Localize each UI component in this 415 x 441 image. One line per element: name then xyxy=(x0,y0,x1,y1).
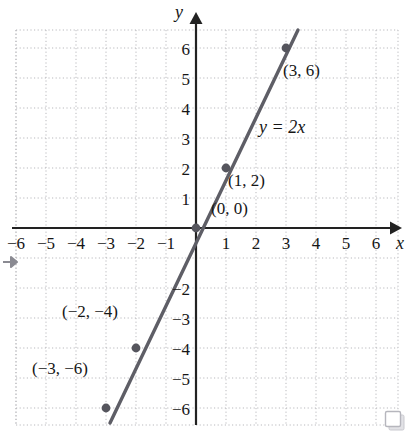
y-tick-3: 3 xyxy=(170,131,190,148)
y-tick-neg2: −2 xyxy=(163,281,190,298)
x-tick-6: 6 xyxy=(366,235,386,252)
graph-figure: −6 −5 −4 −3 −2 −1 1 2 3 4 5 6 6 5 4 3 2 … xyxy=(0,0,415,441)
x-tick-1: 1 xyxy=(216,235,236,252)
y-tick-neg3: −3 xyxy=(163,311,190,328)
x-axis-label: x xyxy=(396,234,404,252)
y-axis xyxy=(190,12,203,425)
y-tick-neg6: −6 xyxy=(163,401,190,418)
point-label-1-2: (1, 2) xyxy=(228,172,265,190)
data-point-3-6 xyxy=(282,44,291,53)
y-tick-2: 2 xyxy=(170,161,190,178)
point-label-3-6: (3, 6) xyxy=(283,62,320,80)
data-point-neg3-neg6 xyxy=(102,404,111,413)
x-tick-neg2: −2 xyxy=(126,235,146,252)
y-tick-4: 4 xyxy=(170,101,190,118)
x-tick-2: 2 xyxy=(246,235,266,252)
right-arrow-icon xyxy=(2,253,22,271)
y-tick-neg5: −5 xyxy=(163,371,190,388)
data-point-neg2-neg4 xyxy=(132,344,141,353)
x-tick-3: 3 xyxy=(276,235,296,252)
x-tick-neg1: −1 xyxy=(156,235,176,252)
x-tick-neg4: −4 xyxy=(66,235,86,252)
x-tick-5: 5 xyxy=(336,235,356,252)
y-tick-1: 1 xyxy=(170,191,190,208)
point-label-0-0: (0, 0) xyxy=(211,200,248,218)
point-label-neg3-neg6: (−3, −6) xyxy=(32,360,88,378)
line-y-equals-2x xyxy=(110,30,298,423)
x-tick-4: 4 xyxy=(306,235,326,252)
y-axis-label: y xyxy=(175,3,183,21)
point-label-neg2-neg4: (−2, −4) xyxy=(62,303,118,321)
y-tick-neg4: −4 xyxy=(163,341,190,358)
x-tick-neg6: −6 xyxy=(6,235,26,252)
equation-label: y = 2x xyxy=(259,118,305,136)
stacked-square-icon xyxy=(383,409,407,433)
y-tick-5: 5 xyxy=(170,71,190,88)
x-tick-neg5: −5 xyxy=(36,235,56,252)
y-tick-6: 6 xyxy=(170,41,190,58)
x-tick-neg3: −3 xyxy=(96,235,116,252)
data-point-0-0 xyxy=(192,224,201,233)
